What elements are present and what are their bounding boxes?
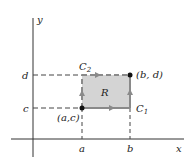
point-label-a-c: (a,c)	[57, 112, 80, 123]
curve-label-c2: C2	[79, 61, 92, 74]
tick-label-b: b	[127, 143, 133, 154]
tick-label-c: c	[23, 103, 29, 114]
region-label: R	[100, 87, 109, 98]
y-axis-label: y	[36, 14, 43, 25]
tick-label-d: d	[22, 70, 28, 81]
x-axis-label: x	[176, 143, 182, 154]
green-theorem-diagram: y x d c a b R (a,c) (b, d) C2 C1	[0, 0, 196, 163]
point-a-c	[80, 106, 85, 111]
curve-label-c1: C1	[136, 103, 148, 116]
point-b-d	[128, 73, 133, 78]
point-label-b-d: (b, d)	[136, 69, 163, 80]
tick-label-a: a	[79, 143, 85, 154]
